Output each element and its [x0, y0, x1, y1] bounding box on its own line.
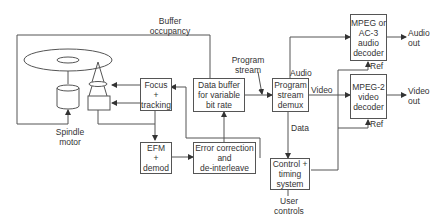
pickup-sled [88, 96, 110, 110]
audio-decoder-block: MPEG or AC-3 audio decoder [350, 14, 387, 61]
program-stream-demux-block: Program stream demux [272, 78, 309, 112]
video-out-label: Video out [408, 86, 430, 106]
program-stream-label: Program stream [228, 55, 268, 75]
disc-icon [24, 49, 112, 71]
data-buffer-block: Data buffer for variable bit rate [193, 78, 245, 112]
user-controls-label: User controls [270, 196, 308, 216]
video-decoder-block: MPEG-2 video decoder [350, 74, 387, 119]
focus-tracking-block: Focus + tracking [140, 78, 172, 111]
error-correction-block: Error correction and de-interleave [193, 142, 256, 174]
control-timing-block: Control + timing system [270, 158, 310, 190]
lens-icon [89, 82, 107, 87]
audio-label: Audio [290, 68, 312, 78]
audio-out-label: Audio out [408, 28, 430, 48]
data-label: Data [291, 123, 309, 133]
video-label: Video [311, 85, 333, 95]
buffer-occupancy-label: Buffer occupancy [140, 16, 200, 36]
spindle-motor-label: Spindle motor [52, 127, 88, 147]
ref-audio-label: Ref [370, 61, 383, 71]
ref-video-label: Ref [370, 119, 383, 129]
efm-demod-block: EFM + demod [140, 142, 172, 174]
